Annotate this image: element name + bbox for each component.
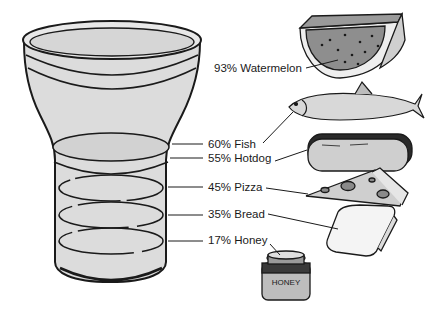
honey-jar-label: HONEY	[272, 278, 301, 287]
glass-cup	[23, 21, 201, 282]
honey-jar-icon	[262, 251, 310, 300]
label-watermelon: 93% Watermelon	[214, 62, 302, 75]
water-content-diagram: HONEY 93% Watermelon 60% Fish 55% Hotdog…	[0, 0, 442, 323]
hotdog-leader	[275, 150, 307, 161]
label-honey: 17% Honey	[208, 234, 267, 247]
fish-icon	[289, 82, 424, 120]
pizza-leader	[266, 188, 308, 194]
pizza-icon	[306, 168, 408, 206]
cup-leader-lines	[168, 144, 203, 241]
label-bread: 35% Bread	[208, 208, 265, 221]
label-pizza: 45% Pizza	[208, 181, 262, 194]
hotdog-icon	[308, 134, 412, 171]
watermelon-icon	[300, 14, 405, 78]
bread-leader	[268, 214, 338, 229]
bread-icon	[327, 205, 397, 256]
label-fish: 60% Fish	[208, 138, 256, 151]
label-hotdog: 55% Hotdog	[208, 152, 271, 165]
fish-leader	[263, 112, 293, 143]
